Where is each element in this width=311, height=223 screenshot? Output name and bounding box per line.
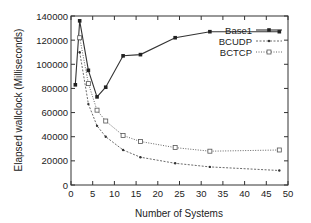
legend-label: BCTCP bbox=[220, 47, 252, 58]
y-axis-title: Elapsed wallclock (Milliseconds) bbox=[13, 29, 24, 172]
marker-dot bbox=[268, 40, 270, 42]
marker-dot bbox=[96, 125, 98, 127]
marker-filled-square bbox=[121, 54, 125, 58]
y-tick-label: 0 bbox=[63, 180, 68, 191]
marker-open-square bbox=[267, 50, 271, 54]
legend-item-bctcp: BCTCP bbox=[220, 47, 282, 58]
marker-filled-square bbox=[87, 69, 91, 73]
marker-open-square bbox=[104, 119, 108, 123]
marker-filled-square bbox=[104, 85, 108, 89]
x-tick-label: 35 bbox=[218, 188, 229, 199]
marker-filled-square bbox=[173, 36, 177, 40]
x-tick-label: 40 bbox=[239, 188, 250, 199]
legend-item-base1: Base1 bbox=[225, 25, 282, 36]
marker-open-square bbox=[173, 146, 177, 150]
marker-dot bbox=[122, 149, 124, 151]
x-tick-label: 45 bbox=[261, 188, 272, 199]
x-tick-label: 20 bbox=[153, 188, 164, 199]
y-tick-label: 100000 bbox=[36, 59, 68, 70]
legend-label: Base1 bbox=[225, 25, 252, 36]
axes: 0510152025303540455002000040000600008000… bbox=[36, 11, 293, 200]
x-tick-label: 50 bbox=[283, 188, 294, 199]
marker-filled-square bbox=[208, 30, 212, 34]
x-tick-label: 15 bbox=[131, 188, 142, 199]
line-chart: 0510152025303540455002000040000600008000… bbox=[0, 0, 311, 223]
marker-dot bbox=[139, 156, 141, 158]
marker-dot bbox=[105, 136, 107, 138]
y-tick-label: 140000 bbox=[36, 11, 68, 22]
chart-container: 0510152025303540455002000040000600008000… bbox=[0, 0, 311, 223]
marker-open-square bbox=[121, 134, 125, 138]
series-bcudp bbox=[78, 51, 280, 172]
x-tick-label: 5 bbox=[90, 188, 95, 199]
marker-open-square bbox=[78, 36, 82, 40]
marker-filled-square bbox=[78, 19, 82, 23]
x-tick-label: 0 bbox=[68, 188, 73, 199]
y-tick-label: 40000 bbox=[42, 131, 68, 142]
x-tick-label: 25 bbox=[174, 188, 185, 199]
marker-dot bbox=[278, 169, 280, 171]
marker-filled-square bbox=[95, 95, 99, 99]
marker-filled-square bbox=[267, 28, 271, 32]
plot-frame bbox=[71, 16, 288, 185]
x-tick-label: 30 bbox=[196, 188, 207, 199]
marker-filled-square bbox=[139, 53, 143, 57]
x-tick-label: 10 bbox=[109, 188, 120, 199]
legend-label: BCUDP bbox=[219, 36, 252, 47]
marker-open-square bbox=[138, 140, 142, 144]
series-line bbox=[80, 52, 280, 170]
marker-dot bbox=[174, 162, 176, 164]
marker-dot bbox=[78, 51, 80, 53]
marker-open-square bbox=[277, 148, 281, 152]
legend-item-bcudp: BCUDP bbox=[219, 36, 282, 47]
y-tick-label: 120000 bbox=[36, 35, 68, 46]
marker-open-square bbox=[208, 149, 212, 153]
x-axis-title: Number of Systems bbox=[135, 208, 223, 219]
y-tick-label: 20000 bbox=[42, 155, 68, 166]
marker-open-square bbox=[95, 108, 99, 112]
marker-open-square bbox=[86, 82, 90, 86]
legend: Base1BCUDPBCTCP bbox=[219, 25, 282, 58]
y-tick-label: 80000 bbox=[42, 83, 68, 94]
marker-dot bbox=[209, 166, 211, 168]
marker-filled-square bbox=[74, 83, 78, 87]
marker-dot bbox=[87, 103, 89, 105]
y-tick-label: 60000 bbox=[42, 107, 68, 118]
